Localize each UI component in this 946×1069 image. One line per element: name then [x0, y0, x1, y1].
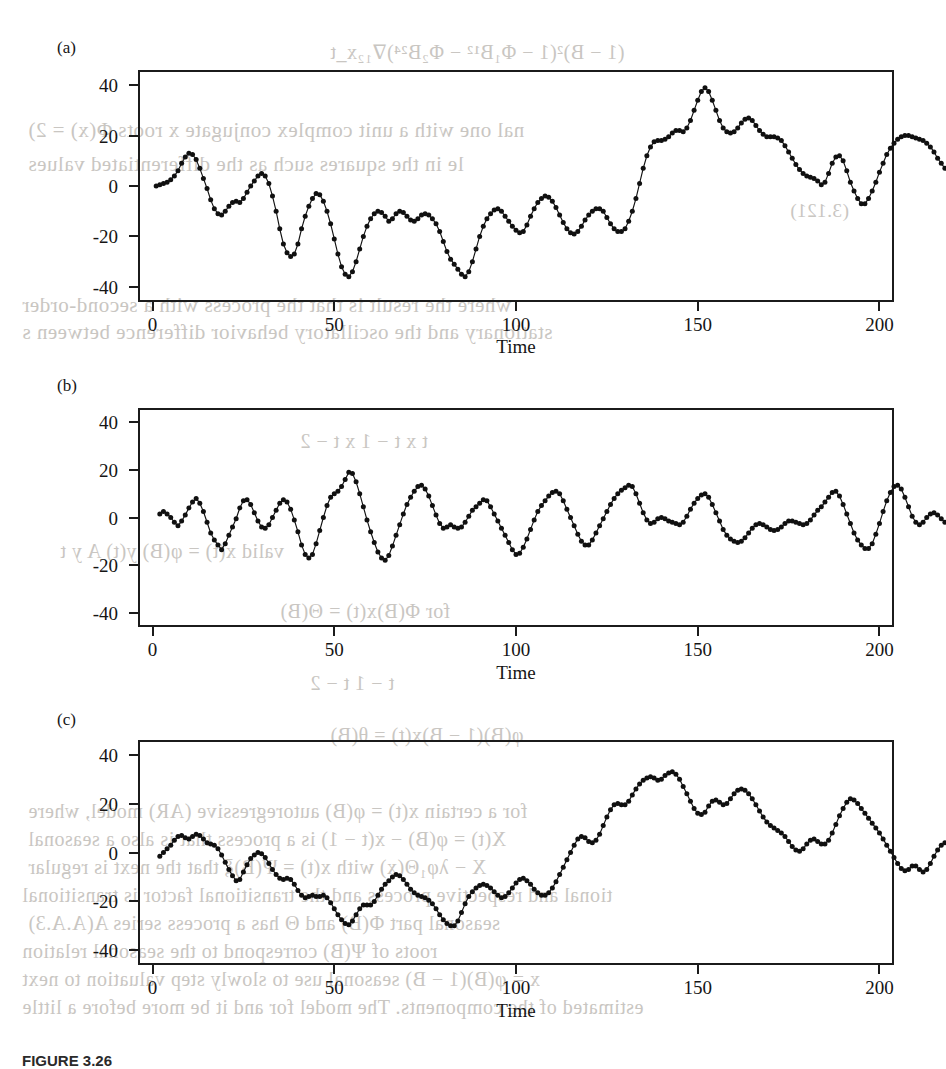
- series-data-point: [339, 917, 344, 922]
- series-data-point: [728, 796, 733, 801]
- series-data-point: [550, 885, 555, 890]
- series-data-point: [230, 873, 235, 878]
- series-data-point: [830, 830, 835, 835]
- series-data-point: [659, 777, 664, 782]
- series-data-point: [583, 835, 588, 840]
- series-data-point: [688, 799, 693, 804]
- series-data-point: [165, 846, 170, 851]
- series-data-point: [742, 788, 747, 793]
- series-data-point: [786, 839, 791, 844]
- series-data-point: [354, 912, 359, 917]
- series-data-point: [568, 850, 573, 855]
- series-data-point: [692, 806, 697, 811]
- series-data-point: [245, 862, 250, 867]
- series-data-point: [288, 877, 293, 882]
- series-data-point: [888, 849, 893, 854]
- series-data-point: [626, 799, 631, 804]
- series-data-point: [924, 867, 929, 872]
- series-data-point: [219, 852, 224, 857]
- series-data-point: [404, 882, 409, 887]
- series-data-point: [455, 918, 460, 923]
- series-data-point: [437, 912, 442, 917]
- series-data-point: [172, 838, 177, 843]
- series-data-point: [506, 890, 511, 895]
- series-data-point: [906, 867, 911, 872]
- series-data-point: [266, 861, 271, 866]
- series-data-point: [383, 882, 388, 887]
- series-data-point: [822, 841, 827, 846]
- series-data-point: [161, 850, 166, 855]
- series-data-point: [870, 821, 875, 826]
- series-data-point: [157, 854, 162, 859]
- series-data-point: [401, 877, 406, 882]
- series-data-point: [325, 895, 330, 900]
- series-data-point: [931, 854, 936, 859]
- series-data-point: [430, 901, 435, 906]
- series-data-point: [884, 843, 889, 848]
- series-line: [160, 772, 946, 926]
- series-data-point: [859, 806, 864, 811]
- series-data-point: [528, 882, 533, 887]
- series-data-point: [241, 870, 246, 875]
- series-data-point: [212, 843, 217, 848]
- series-data-point: [168, 843, 173, 848]
- series-data-point: [452, 923, 457, 928]
- series-data-point: [426, 898, 431, 903]
- series-plot-area: [0, 0, 946, 1069]
- series-data-point: [782, 834, 787, 839]
- series-data-point: [375, 893, 380, 898]
- series-data-point: [372, 899, 377, 904]
- series-data-point: [895, 861, 900, 866]
- series-data-point: [746, 791, 751, 796]
- series-data-point: [913, 863, 918, 868]
- series-data-point: [804, 841, 809, 846]
- series-data-point: [441, 917, 446, 922]
- series-data-point: [459, 910, 464, 915]
- series-data-point: [463, 901, 468, 906]
- series-data-point: [757, 808, 762, 813]
- series-data-point: [332, 906, 337, 911]
- series-data-point: [844, 800, 849, 805]
- series-data-point: [873, 826, 878, 831]
- series-data-point: [223, 860, 228, 865]
- series-data-point: [350, 918, 355, 923]
- series-data-point: [514, 881, 519, 886]
- series-data-point: [408, 887, 413, 892]
- series-data-point: [750, 796, 755, 801]
- series-data-point: [841, 806, 846, 811]
- series-data-point: [328, 900, 333, 905]
- series-data-point: [259, 851, 264, 856]
- series-data-point: [892, 855, 897, 860]
- series-data-point: [837, 813, 842, 818]
- series-data-point: [237, 877, 242, 882]
- series-data-point: [633, 786, 638, 791]
- series-data-point: [561, 865, 566, 870]
- series-data-point: [593, 838, 598, 843]
- series-data-point: [564, 857, 569, 862]
- series-data-point: [935, 848, 940, 853]
- series-data-point: [397, 873, 402, 878]
- series-data-point: [706, 804, 711, 809]
- series-data-point: [779, 830, 784, 835]
- series-data-point: [852, 797, 857, 802]
- series-data-point: [470, 889, 475, 894]
- series-data-point: [532, 887, 537, 892]
- series-data-point: [434, 906, 439, 911]
- series-data-point: [488, 885, 493, 890]
- figure-three-panel-time-series: (a)40200-20-40050100150200Time(b)40200-2…: [0, 0, 946, 1069]
- series-data-point: [201, 837, 206, 842]
- series-data-point: [292, 882, 297, 887]
- series-data-point: [877, 830, 882, 835]
- series-data-point: [226, 867, 231, 872]
- series-data-point: [637, 782, 642, 787]
- series-data-point: [295, 888, 300, 893]
- series-data-point: [833, 822, 838, 827]
- series-data-point: [335, 912, 340, 917]
- series-data-point: [368, 903, 373, 908]
- series-data-point: [557, 872, 562, 877]
- series-data-point: [601, 823, 606, 828]
- series-data-point: [357, 906, 362, 911]
- series-data-point: [274, 872, 279, 877]
- series-data-point: [597, 832, 602, 837]
- series-data-point: [270, 867, 275, 872]
